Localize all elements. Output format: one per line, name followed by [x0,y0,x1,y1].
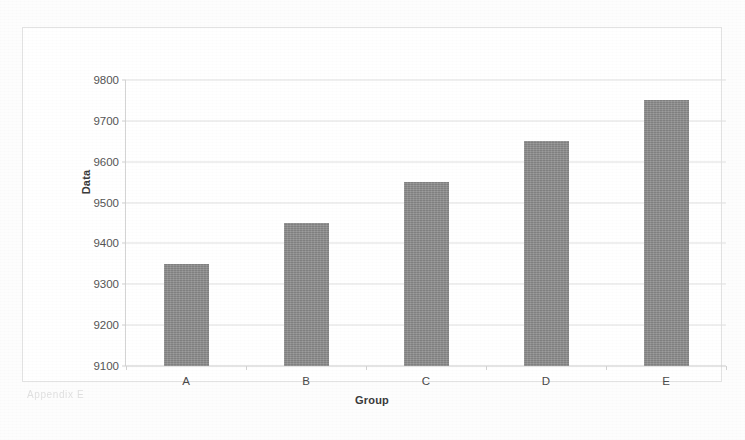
scanned-page: Data 91009200930094009500960097009800 AB… [0,0,745,440]
y-axis-line [125,80,126,366]
x-category-label: E [662,375,670,387]
x-tick-mark [726,366,727,370]
gridline [126,161,726,162]
gridline [126,80,726,81]
x-tick-mark [606,366,607,370]
y-tick-label: 9600 [93,156,119,168]
y-tick-label: 9500 [93,197,119,209]
y-tick-mark [122,284,126,285]
x-tick-mark [126,366,127,370]
y-tick-label: 9800 [93,74,119,86]
plot-area: 91009200930094009500960097009800 ABCDE [126,80,726,366]
y-tick-mark [122,120,126,121]
x-tick-mark [246,366,247,370]
y-axis-title: Data [80,147,92,217]
bar [524,141,569,366]
y-tick-mark [122,243,126,244]
y-tick-label: 9400 [93,237,119,249]
bar [284,223,329,366]
x-tick-mark [366,366,367,370]
y-tick-mark [122,325,126,326]
x-category-label: C [422,375,430,387]
x-category-label: B [302,375,310,387]
x-tick-mark [486,366,487,370]
y-tick-mark [122,202,126,203]
bar [644,100,689,366]
chart-frame: Data 91009200930094009500960097009800 AB… [22,27,722,382]
y-tick-label: 9200 [93,319,119,331]
x-category-label: A [182,375,190,387]
bar [404,182,449,366]
x-axis-title: Group [23,394,721,406]
gridline [126,120,726,121]
y-tick-label: 9300 [93,278,119,290]
y-tick-label: 9700 [93,115,119,127]
bar [164,264,209,366]
ghost-caption-artifact: Appendix E [27,389,84,400]
y-tick-label: 9100 [93,360,119,372]
y-tick-mark [122,161,126,162]
x-category-label: D [542,375,550,387]
y-tick-mark [122,80,126,81]
